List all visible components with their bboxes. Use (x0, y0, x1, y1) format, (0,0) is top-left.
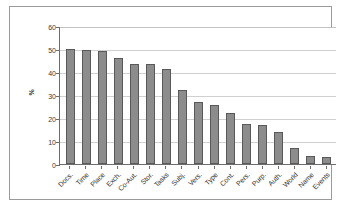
bar[interactable] (82, 50, 91, 164)
x-axis-label-slot: Subj. (173, 166, 189, 207)
bar[interactable] (306, 156, 315, 164)
x-axis-tick-label: Docs. (57, 171, 74, 188)
x-axis-tick-label: Purp. (250, 171, 266, 187)
plot-area (59, 27, 336, 165)
x-axis-tick-label: Time (75, 171, 90, 186)
x-axis-tick-label: Type (203, 171, 218, 186)
x-axis-tick-label: Auth. (267, 171, 283, 187)
x-axis-tick-mark (165, 166, 166, 169)
x-axis-label-slot: Time (77, 166, 93, 207)
x-axis-label-slot: Vers. (190, 166, 206, 207)
x-axis-label-slot: Tasks (157, 166, 173, 207)
bar-slot (302, 27, 318, 164)
x-axis-tick-mark (133, 166, 134, 169)
x-axis-label-slot: Type (206, 166, 222, 207)
x-axis-tick-mark (262, 166, 263, 169)
bar[interactable] (146, 64, 155, 164)
bar-slot (206, 27, 222, 164)
y-axis-tick-label: 0 (30, 162, 56, 169)
bar[interactable] (178, 90, 187, 164)
x-axis-labels: Docs.TimePlaceExch.Co-Aut.Stor.TasksSubj… (59, 166, 336, 207)
bar-slot (62, 27, 78, 164)
bar-slot (238, 27, 254, 164)
x-axis-label-slot: Docs. (61, 166, 77, 207)
y-axis-ticks: 0102030405060 (24, 27, 56, 165)
chart-frame: % 0102030405060 Docs.TimePlaceExch.Co-Au… (9, 6, 332, 200)
x-axis-tick-mark (149, 166, 150, 169)
x-axis-label-slot: Pers. (238, 166, 254, 207)
bar-slot (286, 27, 302, 164)
x-axis-tick-mark (214, 166, 215, 169)
bar[interactable] (290, 148, 299, 164)
bar-slot (318, 27, 334, 164)
bar-slot (158, 27, 174, 164)
y-axis-tick-label: 50 (30, 47, 56, 54)
bar[interactable] (210, 105, 219, 164)
x-axis-tick-mark (85, 166, 86, 169)
x-axis-label-slot: Cont. (222, 166, 238, 207)
y-axis-tick-label: 20 (30, 116, 56, 123)
bar[interactable] (194, 102, 203, 164)
x-axis-tick-mark (246, 166, 247, 169)
bar[interactable] (242, 124, 251, 164)
bar-slot (142, 27, 158, 164)
x-axis-tick-mark (101, 166, 102, 169)
bar-slot (126, 27, 142, 164)
bar[interactable] (274, 132, 283, 164)
bar-slot (110, 27, 126, 164)
x-axis-label-slot: Events (318, 166, 334, 207)
bar[interactable] (162, 69, 171, 164)
bar[interactable] (322, 157, 331, 164)
bar-slot (222, 27, 238, 164)
x-axis-tick-label: Cont. (218, 171, 234, 187)
x-axis-tick-mark (310, 166, 311, 169)
y-axis-tick-label: 60 (30, 24, 56, 31)
x-axis-tick-label: Vers. (187, 171, 203, 187)
x-axis-tick-mark (326, 166, 327, 169)
x-axis-tick-label: Pers. (235, 171, 251, 187)
x-axis-tick-label: Subj. (171, 171, 187, 187)
x-axis-label-slot: Auth. (270, 166, 286, 207)
bar-slot (254, 27, 270, 164)
bar[interactable] (258, 125, 267, 164)
x-axis-label-slot: Co-Aut. (125, 166, 141, 207)
bar-slot (174, 27, 190, 164)
bar[interactable] (98, 51, 107, 164)
bar-slot (94, 27, 110, 164)
x-axis-tick-mark (198, 166, 199, 169)
y-axis-tick-label: 10 (30, 139, 56, 146)
bar[interactable] (114, 58, 123, 164)
bar-series (60, 27, 336, 164)
bar[interactable] (130, 64, 139, 164)
bar-slot (190, 27, 206, 164)
x-axis-label-slot: Purp. (254, 166, 270, 207)
x-axis-label-slot: Place (93, 166, 109, 207)
x-axis-tick-mark (278, 166, 279, 169)
y-axis-tick-label: 30 (30, 93, 56, 100)
x-axis-tick-mark (181, 166, 182, 169)
bar[interactable] (66, 49, 75, 164)
x-axis-tick-mark (117, 166, 118, 169)
y-axis-tick-label: 40 (30, 70, 56, 77)
x-axis-tick-mark (69, 166, 70, 169)
x-axis-tick-mark (230, 166, 231, 169)
bar[interactable] (226, 113, 235, 164)
x-axis-tick-mark (294, 166, 295, 169)
bar-slot (78, 27, 94, 164)
bar-slot (270, 27, 286, 164)
